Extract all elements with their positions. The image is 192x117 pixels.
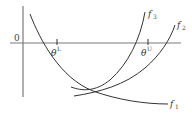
- svg-text:2: 2: [182, 24, 186, 31]
- label-f2: f 2: [176, 20, 186, 31]
- function-diagram: 0 θ L θ U f 3 f 2 f 1: [0, 0, 192, 117]
- curve-f2: [74, 25, 175, 96]
- svg-text:3: 3: [153, 13, 157, 20]
- theta-upper-label: θ U: [141, 45, 152, 58]
- svg-text:1: 1: [175, 103, 179, 110]
- origin-label: 0: [14, 33, 20, 43]
- curve-f3: [71, 12, 145, 90]
- label-f1: f 1: [169, 99, 179, 110]
- label-f3: f 3: [147, 9, 157, 20]
- svg-text:L: L: [57, 45, 61, 52]
- svg-text:U: U: [147, 45, 152, 52]
